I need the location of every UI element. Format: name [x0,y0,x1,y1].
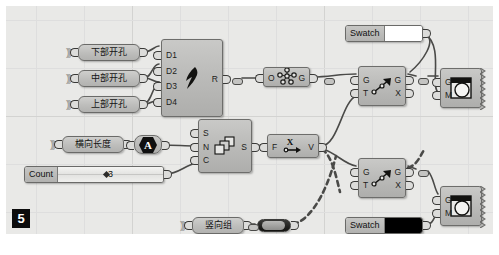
output-port-g-5[interactable] [406,168,414,177]
wire-relay[interactable] [324,78,335,85]
input-label-f-3: F [272,143,277,152]
wire[interactable] [428,171,438,194]
output-port-r-0[interactable] [223,75,231,84]
wire[interactable] [293,156,336,224]
input-port-m-7[interactable] [432,209,440,218]
input-port-m-6[interactable] [432,91,440,100]
input-port-g-7[interactable] [432,196,440,205]
svg-text:X: X [287,137,294,147]
output-port-x-4[interactable] [406,89,414,98]
component-c_transform_top[interactable]: GTGX [358,66,406,106]
input-port-n-1[interactable] [190,143,198,152]
input-label-g-6: G [445,78,452,87]
input-label-m-7: M [445,209,452,218]
param-p_vert_group[interactable]: 竖向组 [192,217,244,234]
param-output-port-p_lower_hole[interactable] [140,48,148,57]
wire[interactable] [312,74,356,77]
wire-relay[interactable] [232,78,243,85]
series-cards-icon [214,136,236,156]
output-port-g-2[interactable] [310,74,318,83]
input-port-t-4[interactable] [350,89,358,98]
param-p_lower_hole[interactable]: 下部开孔 [78,44,140,61]
param-output-port-p_upper_hole[interactable] [140,100,148,109]
colour-swatch-sw_bottom[interactable]: Swatch [345,217,423,234]
input-label-g-4: G [363,76,370,85]
input-port-c-1[interactable] [190,156,198,165]
slider-output-port[interactable] [164,170,172,179]
swatch-output-port-sw_bottom[interactable] [423,221,431,230]
swatch-colour-chip[interactable] [385,218,422,233]
component-c_preview_bottom[interactable]: GM [440,186,482,226]
x-arrow-icon: X [282,137,304,155]
output-label-x-4: X [395,89,401,98]
swatch-label: Swatch [346,26,385,41]
param-p_horiz_len[interactable]: 横向长度 [62,136,124,153]
input-port-d1-0[interactable] [153,51,161,60]
grid-line [132,6,133,234]
component-c_transform_bottom[interactable]: GTGX [358,158,406,198]
input-port-d3-0[interactable] [153,82,161,91]
wire-relay[interactable] [418,170,429,177]
input-label-d3-0: D3 [166,82,177,91]
toggle-output-port[interactable] [291,221,299,230]
param-input-port-p_vert_group[interactable] [184,221,192,230]
wire[interactable] [321,96,356,146]
component-c_evaluate[interactable]: XFV [267,134,319,158]
input-port-f-3[interactable] [259,143,267,152]
number-slider-count[interactable]: Count3 [24,166,164,183]
input-port-d2-0[interactable] [153,67,161,76]
output-port-g-4[interactable] [406,76,414,85]
input-port-o-2[interactable] [255,74,263,83]
grid-line [6,116,493,117]
param-input-port-p_lower_hole[interactable] [70,48,78,57]
input-port-t-5[interactable] [350,181,358,190]
output-label-g-2: G [298,74,305,83]
input-label-n-1: N [203,143,209,152]
param-p_middle_hole[interactable]: 中部开孔 [78,70,140,87]
boolean-toggle[interactable] [257,219,291,232]
wire[interactable] [408,150,424,168]
component-hex-a-param[interactable]: A [134,135,162,154]
param-input-port-p_upper_hole[interactable] [70,100,78,109]
slider-track[interactable]: 3 [58,167,163,182]
component-c_preview_top[interactable]: GM [440,68,482,108]
swatch-output-port-sw_top[interactable] [423,29,431,38]
hexagon-a-icon: A [138,136,158,154]
colour-swatch-sw_top[interactable]: Swatch [345,25,423,42]
grasshopper-canvas[interactable]: D1D2D3D4RSNCSOGXFVGTGXGTGXGMGM下部开孔)))中部开… [6,6,493,234]
input-port-g-4[interactable] [350,76,358,85]
transform-arrow-icon [370,168,394,188]
input-label-g-7: G [445,196,452,205]
component-c_graft[interactable]: OG [263,67,310,87]
input-port-g-5[interactable] [350,168,358,177]
output-port-x-5[interactable] [406,181,414,190]
screenshot-root: D1D2D3D4RSNCSOGXFVGTGXGTGXGMGM下部开孔)))中部开… [0,0,499,255]
swatch-colour-chip[interactable] [385,26,422,41]
input-port-g-6[interactable] [432,78,440,87]
output-port-hex-a[interactable] [162,141,170,150]
param-input-port-p_middle_hole[interactable] [70,74,78,83]
wire-relay[interactable] [248,224,259,231]
wire-relay[interactable] [418,78,429,85]
output-label-r-0: R [212,75,218,84]
component-c_cluster[interactable]: D1D2D3D4R [161,39,223,117]
point-cloud-icon [277,68,297,86]
no-output-zigzag-icon [480,186,486,228]
swatch-label: Swatch [346,218,385,233]
output-port-v-3[interactable] [319,143,327,152]
input-port-s-1[interactable] [190,129,198,138]
grid-line [6,212,493,213]
param-p_upper_hole[interactable]: 上部开孔 [78,96,140,113]
input-label-m-6: M [445,91,452,100]
input-port-d4-0[interactable] [153,98,161,107]
grid-line [36,6,37,234]
toggle-knob[interactable] [262,221,285,230]
input-port-hex-a[interactable] [126,141,134,150]
component-c_series[interactable]: SNCS [198,119,252,173]
svg-text:A: A [144,139,152,151]
param-input-port-p_horiz_len[interactable] [54,140,62,149]
input-label-o-2: O [268,74,275,83]
param-output-port-p_middle_hole[interactable] [140,74,148,83]
input-label-d1-0: D1 [166,51,177,60]
input-label-t-4: T [363,89,368,98]
